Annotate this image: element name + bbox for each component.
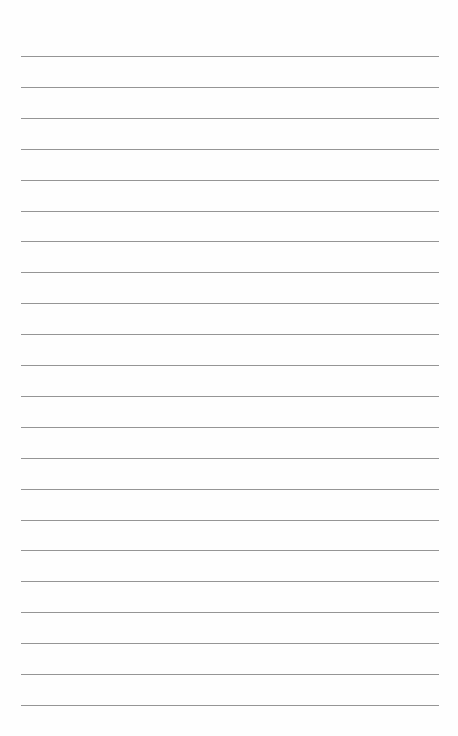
ruled-line <box>21 211 439 212</box>
ruled-line <box>21 396 439 397</box>
ruled-line <box>21 272 439 273</box>
ruled-line <box>21 149 439 150</box>
ruled-line <box>21 520 439 521</box>
ruled-line <box>21 643 439 644</box>
ruled-line <box>21 489 439 490</box>
ruled-line <box>21 56 439 57</box>
ruled-line <box>21 118 439 119</box>
ruled-line <box>21 550 439 551</box>
ruled-line <box>21 612 439 613</box>
ruled-line <box>21 180 439 181</box>
ruled-line <box>21 87 439 88</box>
ruled-line <box>21 458 439 459</box>
ruled-line <box>21 705 439 706</box>
ruled-line <box>21 241 439 242</box>
ruled-line <box>21 427 439 428</box>
ruled-line <box>21 365 439 366</box>
ruled-line <box>21 334 439 335</box>
ruled-line <box>21 581 439 582</box>
lined-paper-page <box>0 0 458 736</box>
ruled-line <box>21 674 439 675</box>
ruled-line <box>21 303 439 304</box>
